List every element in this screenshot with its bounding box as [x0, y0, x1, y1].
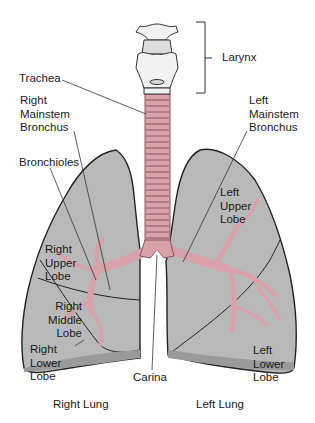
larynx-bracket	[196, 22, 212, 93]
label-left-lower-lobe: Left Lower Lobe	[253, 344, 284, 385]
label-trachea: Trachea	[19, 72, 61, 86]
label-larynx: Larynx	[222, 51, 257, 65]
label-carina: Carina	[133, 371, 167, 385]
label-right-upper-lobe: Right Upper Lobe	[45, 243, 76, 284]
carina-gap	[148, 250, 166, 375]
label-left-lung: Left Lung	[196, 398, 244, 412]
larynx-shape	[136, 24, 178, 94]
label-left-upper-lobe: Left Upper Lobe	[220, 186, 251, 227]
label-right-lung: Right Lung	[53, 398, 109, 412]
label-left-mainstem-bronchus: Left Mainstem Bronchus	[249, 94, 299, 135]
lungs-diagram: Larynx Trachea Right Mainstem Bronchus L…	[0, 0, 315, 423]
label-right-lower-lobe: Right Lower Lobe	[30, 343, 61, 384]
trachea-shape	[145, 94, 170, 244]
label-bronchioles: Bronchioles	[19, 156, 79, 170]
label-right-middle-lobe: Right Middle Lobe	[38, 300, 82, 341]
left-lung-shape	[166, 149, 296, 373]
label-right-mainstem-bronchus: Right Mainstem Bronchus	[20, 94, 70, 135]
